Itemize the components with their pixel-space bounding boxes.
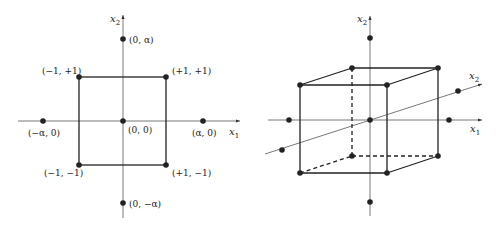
x1-axis-label: x1 xyxy=(229,126,239,140)
x2-depth-axis-label: x2 xyxy=(469,70,479,84)
left-diagram: x2 x1 (0, α) (−1, +1) (+1, +1) (−α, 0) (… xyxy=(18,13,240,218)
x2-axis-label: x2 xyxy=(110,13,120,27)
point-label: (0, α) xyxy=(129,35,154,45)
point-label: (−α, 0) xyxy=(28,128,60,138)
point-label: (+1, +1) xyxy=(172,66,211,76)
point-label: (α, 0) xyxy=(192,128,217,138)
point-label: (0, 0) xyxy=(128,125,152,135)
point-label: (0, −α) xyxy=(129,199,161,209)
diagram-canvas: x2 x1 (0, α) (−1, +1) (+1, +1) (−α, 0) (… xyxy=(0,0,496,231)
point-label: (−1, −1) xyxy=(44,168,83,178)
x2-vertical-axis-label: x2 xyxy=(357,13,367,27)
x1-axis-label: x1 xyxy=(470,123,480,137)
point-label: (+1, −1) xyxy=(172,168,211,178)
right-diagram: x2 x2 x1 xyxy=(265,13,482,216)
point-label: (−1, +1) xyxy=(42,66,81,76)
